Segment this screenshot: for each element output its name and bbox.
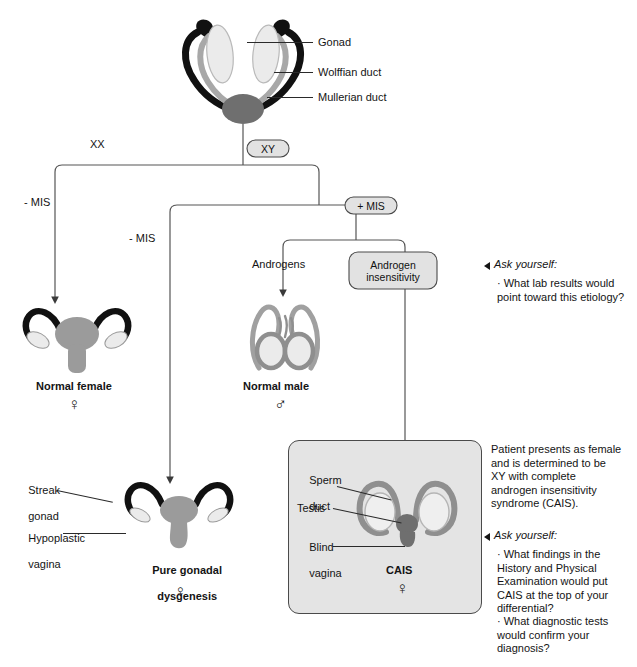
mis-negative-mid-label: - MIS	[129, 232, 155, 245]
ask-yourself-bullet-2b: · What diagnostic tests would confirm yo…	[497, 615, 637, 656]
androgen-insensitivity-box: Androgen insensitivity	[349, 252, 437, 289]
normal-female-symbol: ♀	[68, 396, 81, 413]
plus-mis-pill-label: + MIS	[345, 197, 397, 214]
blind-vagina-leader-line	[333, 546, 405, 547]
blind-vagina-line1: Blind	[309, 541, 333, 553]
hypoplastic-vagina-label: Hypoplastic vagina	[16, 519, 85, 584]
ask-yourself-triangle-icon-1	[484, 262, 490, 270]
cais-central-remnant	[396, 514, 418, 534]
case-paragraph: Patient presents as female and is determ…	[491, 443, 637, 511]
blind-vagina-shape	[400, 531, 415, 547]
cais-symbol: ♀	[396, 580, 409, 597]
xy-branch-path	[243, 165, 319, 205]
testis-right	[285, 334, 313, 368]
normal-male-symbol: ♂	[274, 396, 287, 413]
pure-gonadal-dysgenesis-illustration	[110, 472, 245, 552]
testis-left	[257, 334, 285, 368]
ask-yourself-bullet-2a: · What findings in the History and Physi…	[497, 548, 637, 616]
androgen-insensitivity-line2: insensitivity	[366, 271, 420, 283]
cais-label: CAIS	[386, 564, 412, 577]
normal-male-label: Normal male	[243, 380, 309, 393]
pure-gonadal-dysgenesis-symbol: ♀	[174, 583, 187, 600]
hypoplastic-vagina-shape	[170, 520, 188, 548]
dysgenesis-uterus-body	[160, 496, 198, 524]
androgen-insensitivity-line1: Androgen	[370, 259, 416, 271]
xx-label: XX	[90, 138, 105, 151]
testis-label: Testis	[297, 502, 325, 515]
normal-male-illustration	[245, 296, 325, 376]
pgd-line1: Pure gonadal	[152, 564, 222, 576]
normal-female-illustration	[12, 296, 142, 376]
ask-yourself-triangle-icon-2	[484, 533, 490, 541]
ask-yourself-bullet-1: · What lab results would point toward th…	[497, 277, 635, 304]
sperm-duct-line1: Sperm	[309, 474, 341, 486]
sperm-duct-label: Sperm duct	[297, 461, 342, 526]
diagram-canvas: Gonad Wolffian duct Mullerian duct	[0, 0, 637, 667]
pgd-line2: dysgenesis	[157, 590, 217, 602]
vagina-normal	[68, 344, 86, 373]
xy-pill-label: XY	[247, 140, 289, 157]
androgens-label: Androgens	[252, 258, 305, 271]
normal-female-label: Normal female	[36, 380, 112, 393]
hypoplastic-vagina-line1: Hypoplastic	[28, 532, 85, 544]
cais-illustration	[352, 468, 462, 558]
blind-vagina-line2: vagina	[309, 567, 341, 579]
streak-gonad-line1: Streak	[28, 484, 60, 496]
mis-negative-left-label: - MIS	[24, 196, 50, 209]
testis-right-cais	[419, 493, 449, 531]
blind-vagina-label: Blind vagina	[297, 528, 342, 593]
hypoplastic-vagina-line2: vagina	[28, 558, 60, 570]
ask-yourself-label-1: Ask yourself:	[494, 258, 557, 271]
ask-yourself-label-2: Ask yourself:	[494, 529, 557, 542]
